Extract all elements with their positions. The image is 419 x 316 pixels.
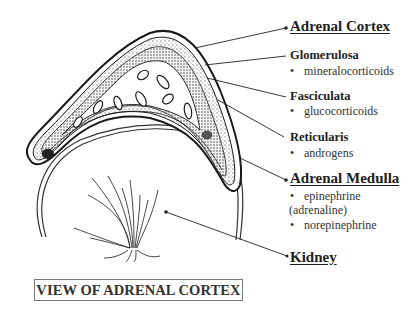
list-item-mineralocorticoids: •mineralocorticoids — [290, 64, 394, 79]
bullet-icon: • — [290, 104, 304, 119]
label-kidney: Kidney — [290, 249, 337, 266]
list-item-androgens: •androgens — [290, 146, 353, 161]
list-item-epinephrine: •epinephrine — [290, 189, 361, 204]
bullet-icon: • — [290, 218, 304, 233]
adrenal-cortex-diagram: Adrenal Cortex Glomerulosa •mineralocort… — [0, 0, 419, 316]
label-adrenal-cortex: Adrenal Cortex — [290, 18, 390, 35]
label-adrenal-medulla: Adrenal Medulla — [290, 170, 399, 187]
bullet-icon: • — [290, 64, 304, 79]
list-item-glucocorticoids: •glucocorticoids — [290, 104, 378, 119]
list-item-norepinephrine: •norepinephrine — [290, 218, 377, 233]
list-item-adrenaline: (adrenaline) — [289, 203, 347, 218]
label-fasciculata: Fasciculata — [290, 89, 350, 104]
adrenal-gland — [27, 31, 241, 191]
diagram-title: VIEW OF ADRENAL CORTEX — [34, 279, 243, 301]
bullet-icon: • — [290, 189, 304, 204]
renal-vessels — [74, 176, 160, 262]
bullet-icon: • — [290, 146, 304, 161]
label-reticularis: Reticularis — [290, 130, 348, 145]
tip-node — [42, 149, 54, 159]
label-glomerulosa: Glomerulosa — [290, 48, 359, 63]
